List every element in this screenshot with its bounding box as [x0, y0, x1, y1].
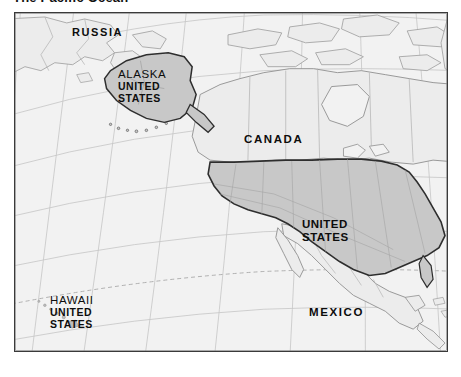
- page-title: The Pacific Ocean: [13, 0, 128, 5]
- map-canvas: [15, 13, 447, 351]
- map-frame: RUSSIA CANADA MEXICO ALASKA UNITED STATE…: [14, 12, 448, 352]
